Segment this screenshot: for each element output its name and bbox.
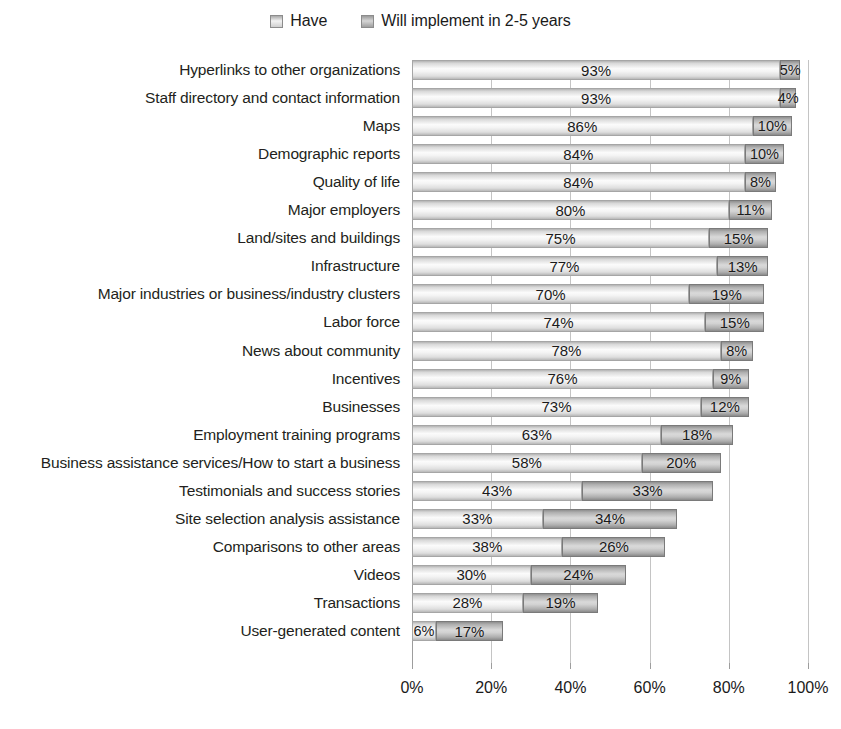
bar-segment-have: 80% [412,200,729,220]
category-label: Incentives [0,365,400,393]
bar-value-label: 6% [413,623,434,639]
legend-entry: Have [270,12,327,30]
bar-row: Major employers80%11% [0,196,841,224]
bar-value-label: 8% [750,174,771,190]
stacked-bar: 93%5% [412,60,808,80]
bar-segment-have: 58% [412,453,642,473]
category-label: Site selection analysis assistance [0,505,400,533]
bar-segment-have: 70% [412,284,689,304]
bar-value-label: 19% [545,594,575,611]
category-label: Demographic reports [0,140,400,168]
bar-value-label: 58% [512,454,542,471]
bar-value-label: 33% [633,482,663,499]
bar-segment-will-implement: 10% [745,144,785,164]
stacked-bar: 74%15% [412,312,808,332]
bar-value-label: 8% [726,343,747,359]
stacked-bar: 58%20% [412,453,808,473]
legend-label: Will implement in 2-5 years [381,12,570,30]
bar-value-label: 76% [547,370,577,387]
x-tick-label: 0% [400,679,423,697]
bar-segment-have: 28% [412,593,523,613]
bar-value-label: 20% [666,454,696,471]
bar-value-label: 74% [544,314,574,331]
chart-legend: HaveWill implement in 2-5 years [0,12,841,30]
category-label: Maps [0,112,400,140]
bar-row: Employment training programs63%18% [0,421,841,449]
bar-segment-will-implement: 24% [531,565,626,585]
bar-segment-have: 73% [412,397,701,417]
bar-segment-will-implement: 26% [562,537,665,557]
bar-value-label: 84% [563,174,593,191]
bar-value-label: 13% [728,258,758,275]
category-label: Hyperlinks to other organizations [0,56,400,84]
category-label: Videos [0,561,400,589]
bar-row: Businesses73%12% [0,393,841,421]
bar-segment-have: 75% [412,228,709,248]
bar-row: Site selection analysis assistance33%34% [0,505,841,533]
bar-value-label: 10% [750,146,779,162]
stacked-bar: 86%10% [412,116,808,136]
bar-value-label: 77% [549,258,579,275]
bar-row: Transactions28%19% [0,589,841,617]
bar-row: User-generated content6%17% [0,617,841,645]
bar-value-label: 78% [551,342,581,359]
category-label: Quality of life [0,168,400,196]
x-tick-mark [650,663,651,669]
bar-value-label: 33% [462,510,492,527]
x-tick-mark [412,663,413,669]
bar-value-label: 11% [737,202,765,218]
bar-segment-will-implement: 8% [721,341,753,361]
bar-segment-have: 77% [412,256,717,276]
bar-row: Major industries or business/industry cl… [0,280,841,308]
bar-value-label: 28% [452,594,482,611]
bar-row: Labor force74%15% [0,308,841,336]
stacked-bar: 33%34% [412,509,808,529]
bar-row: Hyperlinks to other organizations93%5% [0,56,841,84]
bar-value-label: 5% [780,62,801,78]
bar-value-label: 26% [599,538,629,555]
bar-value-label: 9% [720,371,741,387]
bar-segment-will-implement: 17% [436,621,503,641]
bar-row: Incentives76%9% [0,365,841,393]
bar-value-label: 43% [482,482,512,499]
bar-row: Land/sites and buildings75%15% [0,224,841,252]
category-label: Staff directory and contact information [0,84,400,112]
bar-row: Quality of life84%8% [0,168,841,196]
bar-segment-have: 84% [412,172,745,192]
bar-value-label: 24% [563,566,593,583]
category-label: Labor force [0,308,400,336]
stacked-bar: 76%9% [412,369,808,389]
bar-row: Testimonials and success stories43%33% [0,477,841,505]
x-tick-label: 80% [713,679,745,697]
bar-segment-will-implement: 33% [582,481,713,501]
bar-value-label: 63% [522,426,552,443]
bar-segment-have: 74% [412,312,705,332]
stacked-bar: 84%10% [412,144,808,164]
bar-segment-will-implement: 12% [701,397,749,417]
bar-segment-have: 30% [412,565,531,585]
category-label: Employment training programs [0,421,400,449]
bar-row: Demographic reports84%10% [0,140,841,168]
bar-value-label: 84% [563,146,593,163]
bar-value-label: 80% [555,202,585,219]
bar-segment-have: 33% [412,509,543,529]
bar-value-label: 75% [545,230,575,247]
category-label: Major industries or business/industry cl… [0,280,400,308]
category-label: Comparisons to other areas [0,533,400,561]
bar-row: Videos30%24% [0,561,841,589]
bar-value-label: 10% [758,118,787,134]
category-label: User-generated content [0,617,400,645]
stacked-bar: 28%19% [412,593,808,613]
legend-label: Have [290,12,327,30]
bar-value-label: 93% [581,62,611,79]
stacked-bar: 38%26% [412,537,808,557]
bar-segment-will-implement: 8% [745,172,777,192]
bar-segment-will-implement: 34% [543,509,678,529]
bar-row: News about community78%8% [0,337,841,365]
stacked-bar: 84%8% [412,172,808,192]
bar-segment-will-implement: 11% [729,200,773,220]
category-label: Businesses [0,393,400,421]
stacked-bar: 80%11% [412,200,808,220]
x-axis: 0%20%40%60%80%100% [0,671,841,711]
bar-value-label: 15% [724,230,754,247]
